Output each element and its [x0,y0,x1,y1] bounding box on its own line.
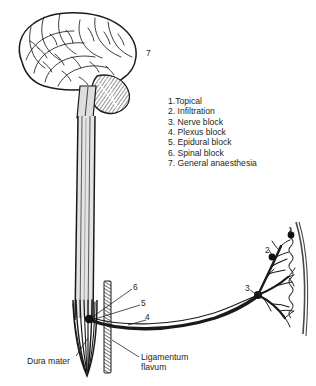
legend-item-4: 4. Plexus block [168,127,257,137]
legend-item-5: 5. Epidural block [168,137,257,147]
marker-label-2: 2 [265,246,270,255]
legend: 1.Topical 2. Infiltration 3. Nerve block… [168,96,257,168]
legend-item-3: 3. Nerve block [168,117,257,127]
brain-group [19,13,136,118]
legend-item-6: 6. Spinal block [168,148,257,158]
legend-item-1: 1.Topical [168,96,257,106]
marker-label-3: 3 [245,284,250,293]
marker-label-6: 6 [133,283,138,292]
spinal-cord-group [75,116,95,320]
legend-item-2: 2. Infiltration [168,106,257,116]
ligamentum-flavum-label-line2: flavum [141,362,211,372]
anatomy-illustration [0,0,316,386]
ligamentum-flavum-label-line1: Ligamentum [141,352,211,362]
legend-item-7: 7. General anaesthesia [168,158,257,168]
marker-label-5: 5 [141,299,146,308]
ligamentum-flavum-label: Ligamentum flavum [141,352,211,372]
spinal-nerve-root [90,298,255,329]
leader-ligamentum-flavum [112,340,139,357]
skin-surface [289,222,308,336]
marker-label-4: 4 [145,313,150,322]
leader-3 [250,290,256,294]
leader-5 [95,305,140,319]
cerebellum [91,75,129,113]
marker-label-7: 7 [146,49,151,58]
dura-mater-label: Dura mater [27,356,70,366]
root-origin-node [85,315,93,323]
anaesthesia-diagram: 1.Topical 2. Infiltration 3. Nerve block… [0,0,316,386]
marker-label-1: 1 [288,226,293,235]
